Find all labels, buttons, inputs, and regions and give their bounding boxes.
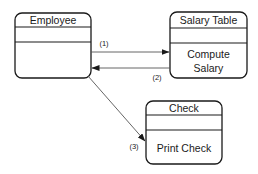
class-check-operation: Print Check	[157, 142, 212, 154]
class-check-name: Check	[169, 102, 200, 114]
class-salary-table-operation-line2: Salary	[194, 62, 225, 74]
message-label-3: (3)	[129, 142, 139, 151]
message-label-1: (1)	[99, 39, 109, 48]
class-employee[interactable]: Employee	[15, 13, 91, 78]
class-employee-name: Employee	[30, 14, 77, 26]
class-salary-table[interactable]: Salary Table Compute Salary	[170, 12, 247, 78]
class-salary-table-operation-line1: Compute	[187, 48, 230, 60]
collaboration-diagram: Employee Salary Table Compute Salary Che…	[0, 0, 258, 174]
class-check[interactable]: Check Print Check	[146, 101, 222, 164]
message-arrow-3	[88, 76, 145, 141]
message-label-2: (2)	[152, 73, 162, 82]
class-salary-table-name: Salary Table	[180, 14, 238, 26]
